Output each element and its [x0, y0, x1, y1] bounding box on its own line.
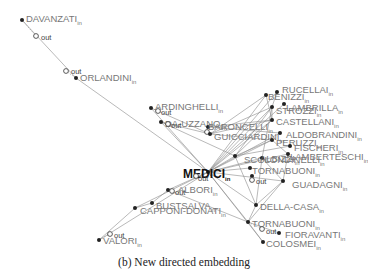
- node-out-marker: [260, 227, 265, 232]
- node-guicciardini: GUICCIARDINIin: [208, 131, 284, 144]
- node-in-marker: [270, 105, 274, 109]
- node-out-label: out: [114, 231, 125, 240]
- node-medici: MEDICIinout: [183, 167, 231, 183]
- node-in-marker: [278, 131, 282, 135]
- node-out-marker: [166, 122, 171, 127]
- node-ardinghelli: ARDINGHELLIinout: [149, 101, 223, 117]
- node-in-marker: [149, 106, 153, 110]
- node-out-marker: [108, 232, 113, 237]
- node-in-marker: [288, 144, 292, 148]
- node-in-marker: [254, 203, 258, 207]
- node-out-label: out: [171, 121, 182, 130]
- node-in-marker: [20, 18, 24, 22]
- node-castellani: CASTELLANIin: [270, 116, 339, 129]
- node-in-marker: [270, 138, 274, 142]
- node-capponi-donati: CAPPONI-DONATIin: [133, 205, 226, 218]
- node-colosmei: COLOSMEIin: [261, 238, 321, 251]
- figure-caption: (b) New directed embedding: [0, 256, 368, 268]
- node-out-label: out: [198, 174, 209, 183]
- node-label: DAVANZATIin: [26, 13, 82, 26]
- node-in-marker: [246, 220, 250, 224]
- node-out-label: out: [175, 188, 186, 197]
- node-out-marker: [34, 34, 39, 39]
- node-in-marker: [74, 76, 78, 80]
- node-out-marker: [250, 178, 255, 183]
- node-out-label: out: [71, 67, 82, 76]
- node-della-casa: DELLA-CASAin: [254, 201, 324, 214]
- node-out-marker: [64, 69, 69, 74]
- edge-da-uzzano-medici: [161, 122, 208, 172]
- node-in-marker: [277, 231, 281, 235]
- node-label: GUADAGNIin: [292, 179, 347, 192]
- node-in-marker: [261, 240, 265, 244]
- node-in-marker: [159, 120, 163, 124]
- node-in-marker: [233, 154, 237, 158]
- nodes-layer: DAVANZATIinoutORLANDINIinoutARDINGHELLIi…: [20, 13, 368, 251]
- node-in-marker: [208, 132, 212, 136]
- node-label: ORLANDINIin: [80, 72, 136, 85]
- node-label: CAPPONI-DONATIin: [140, 205, 226, 218]
- node-out-marker: [170, 189, 175, 194]
- node-out-label: out: [266, 227, 277, 236]
- node-out-label: out: [161, 108, 172, 117]
- node-out-label: out: [41, 33, 52, 42]
- node-in-marker: [281, 179, 285, 183]
- network-diagram: DAVANZATIinoutORLANDINIinoutARDINGHELLIi…: [0, 0, 368, 273]
- node-label: DELLA-CASAin: [260, 201, 324, 214]
- node-label: CASTELLANIin: [276, 116, 339, 129]
- node-albori: ALBORIinout: [166, 184, 218, 197]
- node-out-label: out: [256, 177, 267, 186]
- node-guadagni: GUADAGNIin: [281, 179, 347, 192]
- node-in-marker: [133, 206, 137, 210]
- node-in-marker: [97, 238, 101, 242]
- node-label: COLOSMEIin: [266, 238, 321, 251]
- node-out-marker: [156, 109, 161, 114]
- node-valori: VALORIinout: [97, 231, 142, 248]
- node-in-marker: [270, 118, 274, 122]
